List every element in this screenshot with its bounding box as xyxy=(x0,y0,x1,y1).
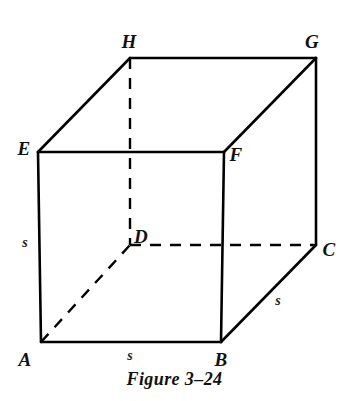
vertex-label-c: C xyxy=(323,240,336,259)
vertex-label-a: A xyxy=(19,350,32,369)
vertex-label-b: B xyxy=(215,350,228,369)
cube-edge-eh xyxy=(38,58,130,152)
cube-edge-ea xyxy=(38,152,41,342)
cube-edge-ad xyxy=(41,245,130,342)
vertex-label-g: G xyxy=(305,32,319,51)
vertex-label-h: H xyxy=(122,32,137,51)
figure-caption: Figure 3–24 xyxy=(0,370,349,390)
cube-edge-bc xyxy=(221,245,316,342)
edge-length-label-s-right: s xyxy=(275,294,280,308)
figure-container: ABCDEFGH sss Figure 3–24 xyxy=(0,0,349,401)
vertex-label-d: D xyxy=(134,227,148,246)
edge-length-label-s-left: s xyxy=(22,236,27,250)
cube-edge-fg xyxy=(224,58,316,152)
cube-drawing xyxy=(0,0,349,401)
cube-edge-bf xyxy=(221,152,224,342)
edge-length-label-s-bottom: s xyxy=(127,349,132,363)
vertex-label-e: E xyxy=(18,139,31,158)
vertex-label-f: F xyxy=(230,145,243,164)
